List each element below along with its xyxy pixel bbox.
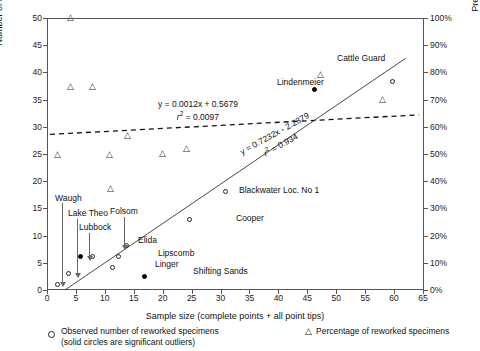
x-axis-tick-label: 30 — [206, 294, 236, 303]
x-axis-tick-mark — [278, 290, 279, 294]
elida-label: Elida — [138, 236, 157, 245]
x-axis-tick-label: 35 — [234, 294, 264, 303]
x-axis-tick-label: 60 — [379, 294, 409, 303]
y-axis-left-tick-label: 30 — [0, 123, 42, 132]
open-circle-icon — [48, 331, 55, 338]
legend-observed-text: Observed number of reworked specimens (s… — [61, 326, 219, 347]
cooper-label: Cooper — [236, 214, 264, 223]
y-axis-left-tick-mark — [43, 154, 47, 155]
x-axis-tick-mark — [134, 290, 135, 294]
data-point-triangle: △ — [106, 150, 113, 159]
x-axis-tick-label: 15 — [119, 294, 149, 303]
x-axis-tick-label: 10 — [90, 294, 120, 303]
legend-observed: Observed number of reworked specimens (s… — [48, 326, 219, 347]
y-axis-left-title: Number of reworked specimens — [0, 0, 4, 72]
dashed-equation-line: y = 0.0012x + 0.5679 — [158, 99, 238, 109]
x-axis-tick-mark — [249, 290, 250, 294]
y-axis-right-tick-mark — [424, 18, 428, 19]
x-axis-tick-label: 45 — [292, 294, 322, 303]
legend-observed-line1: Observed number of reworked specimens — [61, 326, 219, 336]
legend-percentage-text: Percentage of reworked specimens — [316, 326, 449, 337]
y-axis-left-tick-label: 5 — [0, 259, 42, 268]
y-axis-left-tick-mark — [43, 72, 47, 73]
linger-label: Linger — [155, 260, 179, 269]
y-axis-left-tick-label: 40 — [0, 68, 42, 77]
y-axis-right-tick-mark — [424, 208, 428, 209]
data-point-triangle: △ — [379, 95, 386, 104]
lipscomb-label: Lipscomb — [158, 249, 194, 258]
data-point-triangle: △ — [107, 184, 114, 193]
waugh-label: Waugh — [55, 194, 82, 203]
y-axis-right-tick-mark — [424, 100, 428, 101]
y-axis-right-tick-mark — [424, 290, 428, 291]
data-point-triangle: △ — [67, 82, 74, 91]
y-axis-right-tick-label: 100% — [430, 14, 466, 23]
data-point-triangle: △ — [54, 150, 61, 159]
y-axis-left-tick-mark — [43, 208, 47, 209]
x-axis-tick-label: 55 — [350, 294, 380, 303]
y-axis-left-tick-label: 50 — [0, 14, 42, 23]
data-point-circle — [142, 274, 147, 279]
y-axis-left-tick-mark — [43, 263, 47, 264]
y-axis-left-tick-mark — [43, 236, 47, 237]
x-axis-title: Sample size (complete points + all point… — [47, 311, 423, 321]
x-axis-tick-label: 65 — [408, 294, 438, 303]
lake-theo-label: Lake Theo — [68, 209, 108, 218]
x-axis-tick-label: 40 — [263, 294, 293, 303]
x-axis-tick-mark — [307, 290, 308, 294]
y-axis-right-tick-mark — [424, 236, 428, 237]
x-axis-tick-label: 50 — [321, 294, 351, 303]
open-triangle-icon: △ — [305, 327, 312, 336]
y-axis-right-tick-label: 10% — [430, 259, 466, 268]
y-axis-right-tick-mark — [424, 154, 428, 155]
y-axis-left-tick-label: 10 — [0, 232, 42, 241]
y-axis-left-tick-label: 25 — [0, 150, 42, 159]
y-axis-right-tick-label: 70% — [430, 96, 466, 105]
y-axis-left-tick-mark — [43, 45, 47, 46]
y-axis-right-tick-mark — [424, 45, 428, 46]
y-axis-right-tick-label: 20% — [430, 232, 466, 241]
x-axis-tick-mark — [423, 290, 424, 294]
x-axis-tick-label: 20 — [148, 294, 178, 303]
folsom-label: Folsom — [110, 207, 138, 216]
y-axis-right-tick-mark — [424, 181, 428, 182]
y-axis-right-tick-label: 80% — [430, 68, 466, 77]
lubbock-arrow — [89, 233, 90, 256]
y-axis-right-title: Predicted percentage of reworked points — [470, 0, 480, 46]
blackwater-label: Blackwater Loc. No 1 — [239, 186, 319, 195]
y-axis-left-tick-label: 20 — [0, 177, 42, 186]
x-axis-tick-label: 25 — [177, 294, 207, 303]
dashed-equation: y = 0.0012x + 0.5679 r2 = 0.0097 — [158, 99, 238, 122]
data-point-triangle: △ — [67, 13, 74, 22]
y-axis-right-tick-label: 30% — [430, 204, 466, 213]
y-axis-left-tick-mark — [43, 100, 47, 101]
data-point-triangle: △ — [89, 82, 96, 91]
dashed-r-value: = 0.0097 — [183, 112, 219, 122]
y-axis-left-tick-mark — [43, 127, 47, 128]
cattle-guard-label: Cattle Guard — [337, 54, 385, 63]
x-axis-tick-mark — [394, 290, 395, 294]
data-point-triangle: △ — [159, 149, 166, 158]
y-axis-right-tick-mark — [424, 263, 428, 264]
x-axis-tick-label: 5 — [61, 294, 91, 303]
x-axis-tick-mark — [47, 290, 48, 294]
x-axis-tick-mark — [221, 290, 222, 294]
x-axis-tick-mark — [336, 290, 337, 294]
x-axis-tick-mark — [365, 290, 366, 294]
x-axis-tick-label: 0 — [32, 294, 62, 303]
y-axis-left-tick-mark — [43, 181, 47, 182]
data-point-circle — [116, 254, 121, 259]
x-axis-tick-mark — [76, 290, 77, 294]
x-axis-tick-mark — [105, 290, 106, 294]
y-axis-right-tick-mark — [424, 127, 428, 128]
x-axis-tick-mark — [163, 290, 164, 294]
legend-observed-line2: (solid circles are significant outliers) — [61, 337, 195, 347]
data-point-triangle: △ — [183, 144, 190, 153]
lubbock-label: Lubbock — [79, 223, 111, 232]
legend-percentage: △ Percentage of reworked specimens — [305, 326, 449, 337]
shifting-sands-label: Shifting Sands — [193, 267, 248, 276]
x-axis-tick-mark — [192, 290, 193, 294]
data-point-triangle: △ — [124, 131, 131, 140]
y-axis-left-tick-label: 35 — [0, 96, 42, 105]
